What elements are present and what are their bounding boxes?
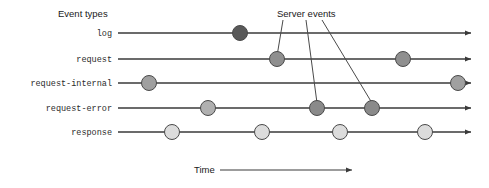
- leader-line-1: [277, 20, 283, 56]
- event-dot-response-1: [165, 125, 180, 140]
- timeline-canvas: Event types log request request-internal…: [0, 0, 489, 188]
- event-dot-request-1: [270, 52, 285, 67]
- event-dot-log-1: [233, 26, 248, 41]
- lane-label-request-error: request-error: [46, 104, 112, 114]
- lane-label-log: log: [97, 29, 112, 39]
- event-dot-request-error-2: [310, 101, 325, 116]
- server-events-annotation: Server events: [277, 8, 336, 19]
- event-dot-request-2: [396, 52, 411, 67]
- event-dot-request-error-3: [365, 101, 380, 116]
- event-timeline-figure: Event types log request request-internal…: [0, 0, 489, 188]
- event-dot-request-error-1: [201, 101, 216, 116]
- page-title: Event types: [58, 8, 108, 19]
- lane-label-request: request: [76, 55, 112, 65]
- time-axis-label: Time: [194, 164, 215, 175]
- event-dot-request-internal-1: [142, 76, 157, 91]
- event-dot-response-3: [333, 125, 348, 140]
- event-dot-response-2: [255, 125, 270, 140]
- event-dot-response-4: [418, 125, 433, 140]
- event-dot-request-internal-2: [451, 76, 466, 91]
- lane-label-response: response: [71, 128, 112, 138]
- lane-label-request-internal: request-internal: [30, 79, 112, 89]
